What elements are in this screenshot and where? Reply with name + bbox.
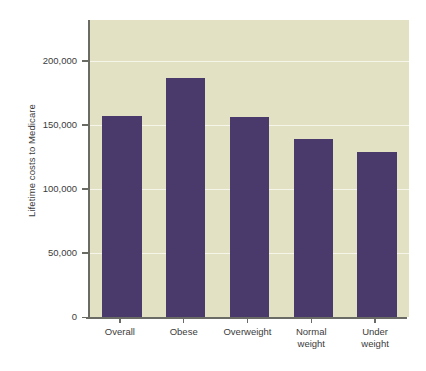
bar [230, 117, 270, 317]
x-tick-mark [119, 318, 121, 323]
y-tick-mark [82, 252, 88, 254]
x-tick-mark [311, 318, 313, 323]
x-tick-mark [183, 318, 185, 323]
plot-inner [90, 20, 409, 317]
bar-chart-figure: Lifetime costs to Medicare 050,000100,00… [0, 0, 426, 371]
x-category-label: Under weight [343, 326, 407, 349]
y-tick-label: 0 [7, 311, 77, 322]
y-tick-label: 150,000 [7, 119, 77, 130]
x-tick-mark [374, 318, 376, 323]
y-tick-mark [82, 60, 88, 62]
bar [102, 116, 142, 317]
bar [166, 78, 206, 317]
bar [294, 139, 334, 317]
gridline [90, 61, 409, 63]
x-category-label: Normal weight [279, 326, 343, 349]
y-tick-label: 200,000 [7, 55, 77, 66]
bar [357, 152, 397, 317]
x-category-label: Overweight [216, 326, 280, 338]
x-category-label: Obese [152, 326, 216, 338]
y-tick-mark [82, 317, 88, 319]
plot-area [88, 20, 409, 317]
y-tick-mark [82, 124, 88, 126]
y-tick-label: 50,000 [7, 247, 77, 258]
y-tick-label: 100,000 [7, 183, 77, 194]
y-axis-title: Lifetime costs to Medicare [26, 61, 37, 261]
x-category-label: Overall [88, 326, 152, 338]
x-tick-mark [247, 318, 249, 323]
y-tick-mark [82, 188, 88, 190]
